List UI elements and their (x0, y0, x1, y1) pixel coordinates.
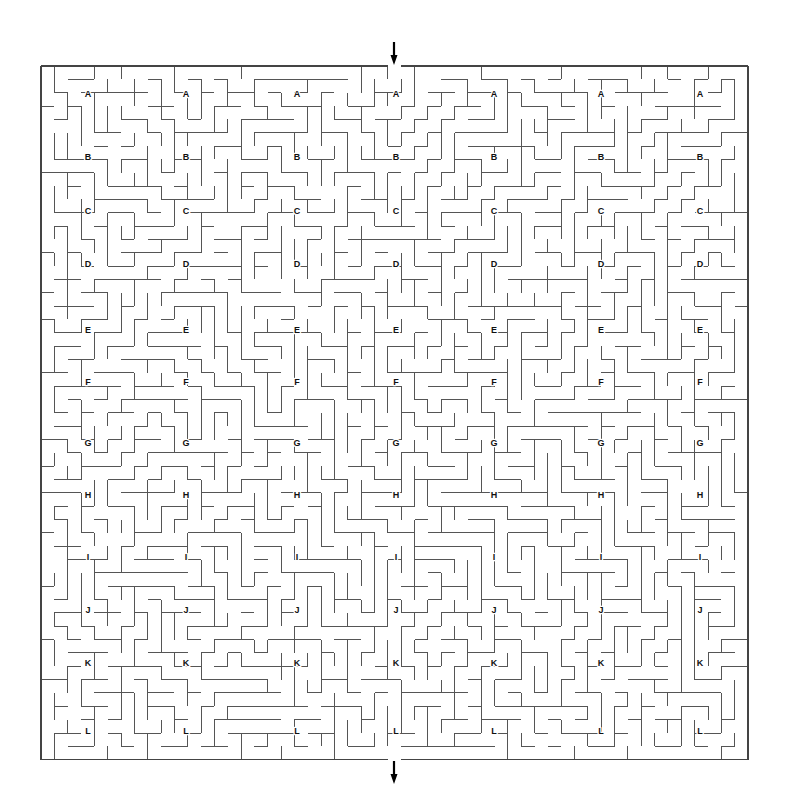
maze-label-i-7: I (699, 552, 702, 562)
maze-label-d-2: D (183, 259, 190, 269)
maze-label-j-5: J (491, 605, 496, 615)
maze-label-e-7: E (697, 325, 703, 335)
maze-label-b-1: B (85, 152, 92, 162)
maze-label-c-4: C (393, 206, 400, 216)
maze-label-h-2: H (183, 490, 190, 500)
maze-label-a-3: A (294, 89, 301, 99)
maze-label-l-7: L (697, 726, 703, 736)
maze-label-c-5: C (491, 206, 498, 216)
maze-label-e-2: E (183, 325, 189, 335)
maze-label-c-2: C (183, 206, 190, 216)
maze-label-a-5: A (491, 89, 498, 99)
maze-label-k-1: K (85, 658, 92, 668)
maze-label-l-4: L (393, 726, 399, 736)
maze-label-b-3: B (294, 152, 301, 162)
maze-label-h-5: H (491, 490, 498, 500)
maze-label-f-7: F (697, 377, 703, 387)
maze-label-f-6: F (598, 377, 604, 387)
maze-label-j-1: J (85, 605, 90, 615)
maze-label-g-5: G (490, 438, 497, 448)
maze-label-e-1: E (85, 325, 91, 335)
maze-label-h-1: H (85, 490, 92, 500)
maze-label-d-3: D (294, 259, 301, 269)
maze-label-e-4: E (393, 325, 399, 335)
maze-label-a-1: A (85, 89, 92, 99)
maze-label-k-2: K (183, 658, 190, 668)
maze-label-j-4: J (393, 605, 398, 615)
maze-label-i-5: I (493, 552, 496, 562)
page-background (0, 0, 787, 812)
maze-label-f-5: F (491, 377, 497, 387)
maze-label-l-2: L (183, 726, 189, 736)
maze-label-h-3: H (294, 490, 301, 500)
maze-label-l-5: L (491, 726, 497, 736)
maze-label-d-7: D (697, 259, 704, 269)
maze-label-i-6: I (600, 552, 603, 562)
maze-container[interactable]: AAAAAAABBBBBBBCCCCCCCDDDDDDDEEEEEEEFFFFF… (0, 0, 787, 812)
maze-label-a-2: A (183, 89, 190, 99)
maze-label-l-3: L (294, 726, 300, 736)
maze-label-l-6: L (598, 726, 604, 736)
maze-label-f-4: F (393, 377, 399, 387)
maze-label-e-5: E (491, 325, 497, 335)
maze-label-k-6: K (598, 658, 605, 668)
maze-label-g-6: G (597, 438, 604, 448)
maze-label-f-1: F (85, 377, 91, 387)
maze-label-e-3: E (294, 325, 300, 335)
maze-label-c-1: C (85, 206, 92, 216)
maze-label-h-6: H (598, 490, 605, 500)
maze-label-f-2: F (183, 377, 189, 387)
maze-label-k-3: K (294, 658, 301, 668)
maze-label-h-7: H (697, 490, 704, 500)
maze-svg[interactable]: AAAAAAABBBBBBBCCCCCCCDDDDDDDEEEEEEEFFFFF… (0, 0, 787, 812)
maze-label-g-7: G (696, 438, 703, 448)
maze-label-b-7: B (697, 152, 704, 162)
maze-label-i-3: I (296, 552, 299, 562)
maze-label-b-2: B (183, 152, 190, 162)
maze-label-a-6: A (598, 89, 605, 99)
maze-label-b-4: B (393, 152, 400, 162)
maze-label-j-2: J (183, 605, 188, 615)
maze-label-l-1: L (85, 726, 91, 736)
maze-label-j-7: J (697, 605, 702, 615)
maze-label-c-3: C (294, 206, 301, 216)
maze-label-d-6: D (598, 259, 605, 269)
maze-page: AAAAAAABBBBBBBCCCCCCCDDDDDDDEEEEEEEFFFFF… (0, 0, 787, 812)
maze-label-a-7: A (697, 89, 704, 99)
maze-label-k-5: K (491, 658, 498, 668)
maze-label-c-7: C (697, 206, 704, 216)
maze-label-j-3: J (294, 605, 299, 615)
maze-label-g-3: G (293, 438, 300, 448)
maze-label-k-7: K (697, 658, 704, 668)
maze-label-a-4: A (393, 89, 400, 99)
maze-label-d-1: D (85, 259, 92, 269)
maze-label-k-4: K (393, 658, 400, 668)
maze-label-g-1: G (84, 438, 91, 448)
maze-label-d-5: D (491, 259, 498, 269)
maze-label-e-6: E (598, 325, 604, 335)
maze-label-j-6: J (598, 605, 603, 615)
maze-label-b-6: B (598, 152, 605, 162)
maze-label-g-4: G (392, 438, 399, 448)
maze-label-f-3: F (294, 377, 300, 387)
maze-label-c-6: C (598, 206, 605, 216)
maze-label-b-5: B (491, 152, 498, 162)
maze-label-g-2: G (182, 438, 189, 448)
maze-label-i-4: I (395, 552, 398, 562)
maze-label-i-2: I (185, 552, 188, 562)
maze-label-d-4: D (393, 259, 400, 269)
maze-label-i-1: I (87, 552, 90, 562)
maze-label-h-4: H (393, 490, 400, 500)
